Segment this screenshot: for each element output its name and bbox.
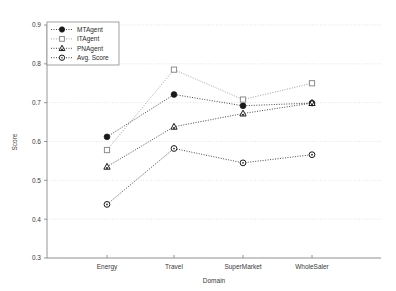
y-axis-ticks: 0.30.40.50.60.70.80.9 xyxy=(32,21,47,261)
data-point-center-dot xyxy=(61,48,63,50)
data-point-open-square xyxy=(104,147,109,152)
chart-legend: MTAgentITAgentPNAgentAvg. Score xyxy=(47,22,119,65)
data-point-center-dot xyxy=(311,154,313,156)
y-tick-label: 0.7 xyxy=(32,99,41,106)
series-avg-score xyxy=(104,146,315,208)
x-tick-label: Travel xyxy=(165,263,183,270)
data-point-center-dot xyxy=(61,57,63,59)
data-point-center-dot xyxy=(242,162,244,164)
line-chart: 0.30.40.50.60.70.80.9 EnergyTravelSuperM… xyxy=(0,0,396,291)
data-point-center-dot xyxy=(106,204,108,206)
data-point-center-dot xyxy=(173,148,175,150)
legend-item-label: ITAgent xyxy=(77,35,99,43)
data-point-filled-circle xyxy=(104,134,110,140)
series-itagent xyxy=(104,67,314,153)
y-tick-label: 0.3 xyxy=(32,254,41,261)
series-pnagent xyxy=(104,100,315,170)
x-tick-label: WholeSaler xyxy=(295,263,329,270)
data-point-filled-circle xyxy=(171,92,177,98)
data-point-center-dot xyxy=(311,103,313,105)
series-line xyxy=(107,148,312,204)
x-tick-label: Energy xyxy=(97,263,118,271)
data-point-open-square xyxy=(240,97,245,102)
series-mtagent xyxy=(104,92,315,140)
data-series-layer xyxy=(104,67,315,207)
data-point-open-square xyxy=(171,67,176,72)
legend-item-label: Avg. Score xyxy=(77,54,109,62)
y-tick-label: 0.9 xyxy=(32,21,41,28)
data-point-center-dot xyxy=(242,114,244,116)
y-tick-label: 0.4 xyxy=(32,216,41,223)
x-axis-title: Domain xyxy=(203,277,226,284)
x-axis-ticks: EnergyTravelSuperMarketWholeSaler xyxy=(97,255,330,271)
series-line xyxy=(107,95,312,137)
data-point-filled-circle xyxy=(240,103,246,109)
x-tick-label: SuperMarket xyxy=(224,263,261,271)
y-tick-label: 0.6 xyxy=(32,138,41,145)
y-tick-label: 0.8 xyxy=(32,60,41,67)
data-point-open-square xyxy=(309,81,314,86)
data-point-center-dot xyxy=(106,167,108,169)
series-line xyxy=(107,70,312,150)
data-point-open-square xyxy=(60,37,65,42)
y-axis-title: Score xyxy=(11,133,18,150)
legend-item-label: PNAgent xyxy=(77,45,103,53)
chart-figure: 0.30.40.50.60.70.80.9 EnergyTravelSuperM… xyxy=(0,0,396,291)
legend-item-label: MTAgent xyxy=(77,26,103,34)
y-tick-label: 0.5 xyxy=(32,177,41,184)
data-point-filled-circle xyxy=(59,27,64,32)
data-point-center-dot xyxy=(173,127,175,129)
